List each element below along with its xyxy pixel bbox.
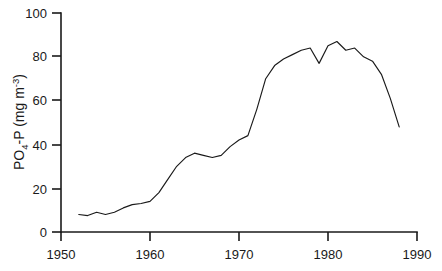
x-axis-ticks [61, 232, 417, 241]
y-tick-label-60: 60 [33, 93, 47, 108]
y-axis-label-prefix: PO [11, 150, 27, 170]
x-axis-tick-labels: 1950 1960 1970 1980 1990 [47, 247, 432, 262]
data-series-line [79, 41, 399, 215]
chart-canvas: 100 80 60 40 20 0 1950 1960 1970 1980 19… [0, 0, 442, 271]
chart-figure: 100 80 60 40 20 0 1950 1960 1970 1980 19… [0, 0, 442, 271]
y-tick-label-100: 100 [25, 6, 47, 21]
x-tick-label-1950: 1950 [47, 247, 76, 262]
y-axis-ticks [52, 13, 61, 232]
y-axis-label-mid: -P (mg m [11, 87, 27, 144]
x-tick-label-1970: 1970 [225, 247, 254, 262]
y-axis-tick-labels: 100 80 60 40 20 0 [25, 6, 47, 240]
y-tick-label-40: 40 [33, 138, 47, 153]
y-tick-label-20: 20 [33, 182, 47, 197]
y-tick-label-0: 0 [40, 225, 47, 240]
y-axis-label: PO4-P (mg m-3) [10, 74, 30, 170]
x-tick-label-1960: 1960 [136, 247, 165, 262]
y-axis-label-suffix: ) [11, 74, 27, 79]
svg-text:PO4-P (mg m-3): PO4-P (mg m-3) [10, 74, 30, 170]
x-tick-label-1980: 1980 [314, 247, 343, 262]
y-axis-label-superscript: -3 [10, 79, 21, 87]
y-tick-label-80: 80 [33, 49, 47, 64]
x-tick-label-1990: 1990 [403, 247, 432, 262]
